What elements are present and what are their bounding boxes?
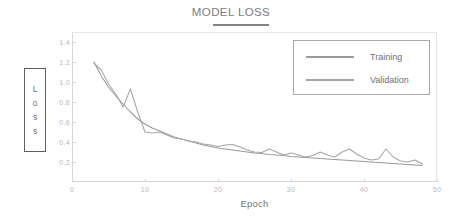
x-tick-label: 0 [70,186,74,193]
x-tick-mark [145,179,146,183]
y-tick-label: 0.6 [59,119,70,126]
x-tick-mark [291,179,292,183]
y-axis-label-letter: s [33,127,37,136]
x-axis-label-epoch: Epoch [72,198,437,209]
x-tick-label: 50 [433,186,441,193]
x-tick-mark [218,179,219,183]
y-tick-label: 1.0 [59,79,70,86]
legend-item-validation: Validation [294,69,429,91]
x-tick-label: 30 [287,186,295,193]
x-tick-label: 10 [141,186,149,193]
x-tick-label: 40 [360,186,368,193]
x-tick-mark [364,179,365,183]
y-axis-label-loss: L o s s [24,68,46,152]
model-loss-chart-figure: MODEL LOSS L o s s 0.20.40.60.81.01.21.4… [0,0,462,221]
y-axis-label-letter: s [33,113,37,122]
x-tick-mark [72,179,73,183]
y-tick-label: 1.4 [59,39,70,46]
chart-title: MODEL LOSS [0,6,462,18]
y-axis-label-letter: L [33,85,38,94]
y-tick-label: 0.2 [59,159,70,166]
y-tick-label: 1.2 [59,59,70,66]
legend-item-training: Training [294,46,429,68]
legend-line-sample-training [306,56,354,57]
x-tick-mark [437,179,438,183]
x-axis-tick-labels: 01020304050 [72,182,437,198]
legend-label-training: Training [370,52,402,62]
legend-line-sample-validation [306,79,354,80]
x-tick-label: 20 [214,186,222,193]
chart-legend: Training Validation [293,40,430,95]
y-axis-label-letter: o [33,99,38,108]
y-tick-label: 0.8 [59,99,70,106]
y-axis-tick-labels: 0.20.40.60.81.01.21.4 [46,32,72,182]
y-tick-label: 0.4 [59,139,70,146]
title-underline-rule [213,24,269,26]
legend-label-validation: Validation [370,75,409,85]
